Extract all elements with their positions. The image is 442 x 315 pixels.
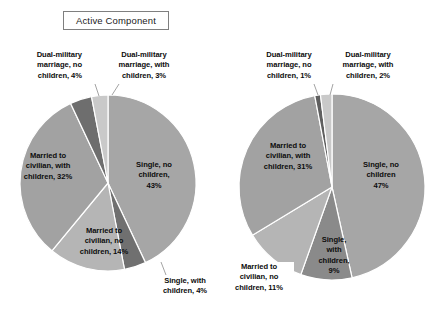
slice-label-reserve-single-no-children: Single, no children 47% [352, 160, 410, 191]
slice-label-active-dual-military-with-children: Dual-military marriage, with children, 3… [104, 50, 184, 81]
slice-label-reserve-married-civilian-with-children: Married to civilian, with children, 31% [250, 141, 326, 172]
slice-label-reserve-single-with-children: Single, with children, 9% [313, 235, 355, 277]
slice-label-active-single-no-children: Single, no children, 43% [124, 160, 184, 191]
slice-label-reserve-dual-military-no-children: Dual-military marriage, no children, 1% [254, 50, 324, 81]
chart-title-active: Active Component [63, 11, 169, 30]
slice-label-active-married-civilian-no-children: Married to civilian, no children, 14% [69, 226, 139, 257]
slice-label-reserve-dual-military-with-children: Dual-military marriage, with children, 2… [328, 50, 408, 81]
slice-label-active-single-with-children: Single, with children, 4% [152, 276, 218, 297]
slice-label-reserve-married-civilian-no-children: Married to civilian, no children, 11% [224, 262, 294, 293]
chart-title-active-text: Active Component [76, 15, 156, 26]
slice-label-active-dual-military-no-children: Dual-military marriage, no children, 4% [6, 50, 82, 81]
slice-label-active-married-civilian-with-children: Married to civilian, with children, 32% [10, 151, 86, 182]
